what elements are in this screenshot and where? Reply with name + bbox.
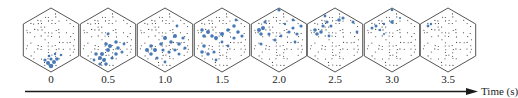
hexagon-outline bbox=[420, 8, 475, 72]
arrow-head-icon bbox=[466, 88, 478, 95]
hexagon-frame bbox=[80, 8, 135, 72]
time-tick-label: 1.5 bbox=[215, 73, 229, 85]
time-axis bbox=[25, 88, 478, 95]
time-axis-label: Time (s) bbox=[481, 85, 518, 97]
time-tick-label: 0.5 bbox=[101, 73, 115, 85]
time-tick-label: 0 bbox=[48, 73, 54, 85]
hexagon-frame bbox=[23, 8, 78, 72]
hexagon-frame bbox=[137, 8, 192, 72]
hexagon-frame bbox=[364, 8, 419, 72]
hexagon-outline bbox=[251, 8, 306, 72]
time-tick-label: 2.0 bbox=[272, 73, 286, 85]
hexagon-frame bbox=[251, 8, 306, 72]
hexagon-outline bbox=[194, 8, 249, 72]
hexagon-frame bbox=[420, 8, 475, 72]
hexagon-outline bbox=[307, 8, 362, 72]
hexagon-frame bbox=[307, 8, 362, 72]
hexagon-outline bbox=[23, 8, 78, 72]
time-tick-label: 3.0 bbox=[385, 73, 399, 85]
hexagon-outline bbox=[80, 8, 135, 72]
hexagon-frame bbox=[194, 8, 249, 72]
frames-layer bbox=[23, 8, 475, 72]
hexagon-outline bbox=[364, 8, 419, 72]
time-tick-label: 3.5 bbox=[441, 73, 455, 85]
time-tick-label: 1.0 bbox=[158, 73, 172, 85]
time-tick-label: 2.5 bbox=[328, 73, 342, 85]
